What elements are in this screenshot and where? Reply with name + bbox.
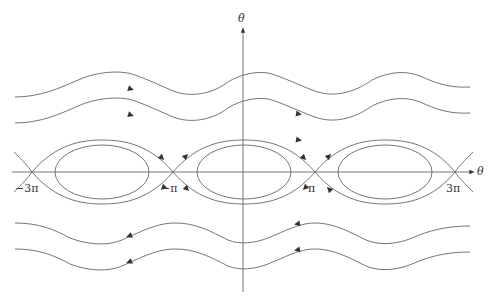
tick-label-neg-pi: −π	[161, 182, 177, 195]
orbit-upper-2	[15, 98, 470, 123]
lower-rotating-orbits	[15, 223, 470, 270]
tick-label-3pi: 3π	[446, 182, 460, 195]
arrow-right-icon	[127, 85, 135, 93]
upper-rotating-orbits	[15, 72, 470, 123]
arrow-left-icon	[125, 232, 133, 240]
arrow-left-icon	[125, 258, 133, 266]
axes	[12, 30, 472, 292]
arrow-right-icon	[296, 137, 303, 144]
orbit-upper-1	[15, 72, 470, 97]
arrow-right-icon	[127, 111, 135, 119]
theta-axis-label: θ	[477, 165, 484, 178]
tick-label-neg-3pi: −3π	[15, 182, 38, 195]
orbit-lower-2	[15, 249, 470, 270]
phase-portrait	[0, 0, 495, 302]
arrow-icon	[183, 185, 191, 193]
arrow-icon	[182, 152, 190, 160]
orbit-lower-1	[15, 223, 470, 244]
tick-label-pi: π	[308, 182, 315, 195]
theta-dot-axis-label: θ̇	[238, 12, 245, 25]
